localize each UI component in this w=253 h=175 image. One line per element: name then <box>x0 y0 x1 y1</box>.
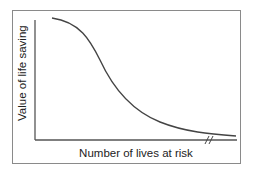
series-line <box>52 18 236 136</box>
x-axis-label: Number of lives at risk <box>35 147 237 159</box>
y-axis-label: Value of life saving <box>16 31 28 121</box>
